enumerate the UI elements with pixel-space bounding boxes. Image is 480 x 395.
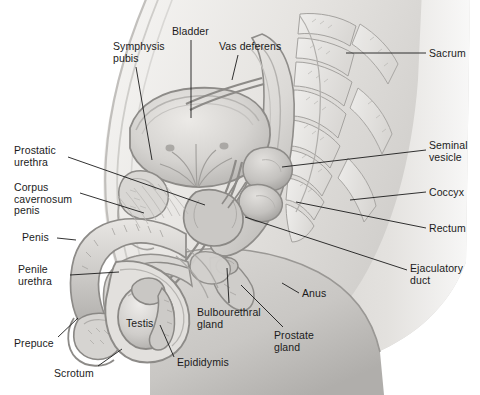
label-ejaculatory-duct: Ejaculatory duct bbox=[410, 263, 463, 286]
label-corpus-cavernosum: Corpus cavernosum penis bbox=[14, 182, 72, 217]
label-anus: Anus bbox=[302, 288, 326, 300]
label-sacrum: Sacrum bbox=[429, 48, 466, 60]
label-testis: Testis bbox=[126, 318, 153, 330]
label-epididymis: Epididymis bbox=[177, 357, 229, 369]
label-coccyx: Coccyx bbox=[429, 187, 464, 199]
label-penis: Penis bbox=[22, 232, 49, 244]
label-scrotum: Scrotum bbox=[54, 368, 94, 380]
label-vas-deferens: Vas deferens bbox=[219, 41, 281, 53]
label-rectum: Rectum bbox=[429, 223, 466, 235]
label-prostatic-urethra: Prostatic urethra bbox=[14, 145, 56, 168]
label-bulbourethral-gland: Bulbourethral gland bbox=[197, 307, 261, 330]
label-symphysis-pubis: Symphysis pubis bbox=[113, 41, 165, 64]
anatomy-figure: BladderSymphysis pubisVas deferensSacrum… bbox=[0, 0, 480, 395]
label-seminal-vesicle: Seminal vesicle bbox=[429, 140, 468, 163]
label-bladder: Bladder bbox=[172, 26, 209, 38]
label-prepuce: Prepuce bbox=[14, 338, 54, 350]
label-prostate-gland: Prostate gland bbox=[274, 330, 314, 353]
label-penile-urethra: Penile urethra bbox=[18, 264, 52, 287]
